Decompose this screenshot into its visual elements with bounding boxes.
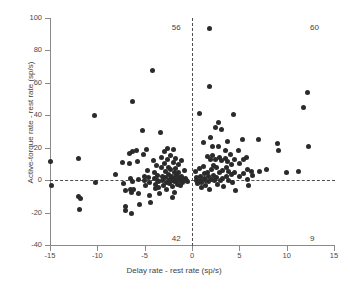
- x-tick-label: 10: [275, 252, 299, 260]
- data-point: [144, 147, 149, 152]
- data-point: [219, 127, 224, 132]
- count-lower-right-quadrant: 9: [310, 234, 314, 243]
- data-point: [296, 169, 301, 174]
- x-tick-label: 15: [322, 252, 346, 260]
- data-point: [305, 90, 310, 95]
- data-point: [182, 168, 187, 173]
- data-point: [197, 111, 202, 116]
- x-tick-label: 5: [227, 252, 251, 260]
- data-point: [158, 130, 163, 135]
- data-point: [250, 173, 255, 178]
- data-point: [130, 179, 135, 184]
- data-point: [232, 170, 237, 175]
- data-point: [228, 152, 233, 157]
- data-point: [141, 152, 146, 157]
- data-point: [244, 155, 249, 160]
- data-point: [207, 187, 212, 192]
- data-point: [140, 128, 145, 133]
- data-point: [165, 157, 170, 162]
- data-point: [147, 180, 152, 185]
- data-point: [135, 159, 140, 164]
- data-point: [92, 113, 97, 118]
- data-point: [136, 191, 141, 196]
- data-point: [150, 68, 155, 73]
- data-point: [76, 156, 81, 161]
- data-point: [241, 171, 246, 176]
- y-tick-mark: [45, 50, 50, 51]
- data-point: [121, 181, 126, 186]
- x-tick-label: 0: [180, 252, 204, 260]
- data-point: [246, 183, 251, 188]
- data-point: [120, 160, 125, 165]
- data-point: [229, 162, 234, 167]
- y-tick-label: 40: [34, 111, 42, 119]
- data-point: [173, 156, 178, 161]
- data-point: [170, 195, 175, 200]
- data-point: [216, 144, 221, 149]
- data-point: [236, 148, 241, 153]
- data-point: [257, 169, 262, 174]
- data-point: [240, 137, 245, 142]
- data-point: [306, 144, 311, 149]
- data-point: [129, 211, 134, 216]
- data-point: [233, 188, 238, 193]
- data-point: [48, 159, 53, 164]
- data-point: [185, 179, 190, 184]
- data-point: [276, 148, 281, 153]
- data-point: [225, 139, 230, 144]
- y-tick-mark: [45, 83, 50, 84]
- data-point: [207, 26, 212, 31]
- data-point: [208, 135, 213, 140]
- y-tick-label: 80: [34, 46, 42, 54]
- data-point: [131, 187, 136, 192]
- data-point: [207, 84, 212, 89]
- data-point: [136, 177, 141, 182]
- data-point: [123, 208, 128, 213]
- data-point: [201, 140, 206, 145]
- data-point: [230, 180, 235, 185]
- data-point: [237, 161, 242, 166]
- data-point: [168, 153, 173, 158]
- data-point: [264, 167, 269, 172]
- data-point: [210, 144, 215, 149]
- y-tick-label: 60: [34, 79, 42, 87]
- y-tick-mark: [45, 148, 50, 149]
- y-tick-mark: [45, 115, 50, 116]
- y-tick-label: 0: [38, 176, 42, 184]
- data-point: [148, 200, 153, 205]
- y-tick-label: -40: [31, 241, 42, 249]
- data-point: [145, 168, 150, 173]
- data-point: [231, 112, 236, 117]
- y-axis-line: [50, 18, 51, 246]
- data-point: [171, 147, 176, 152]
- y-tick-mark: [45, 18, 50, 19]
- x-tick-label: -15: [38, 252, 62, 260]
- data-point: [134, 148, 139, 153]
- data-point: [232, 157, 237, 162]
- count-upper-right-quadrant: 60: [310, 23, 319, 32]
- x-axis-title: Delay rate - rest rate (sp/s): [0, 266, 348, 275]
- data-point: [127, 161, 132, 166]
- data-point: [113, 172, 118, 177]
- x-tick-label: -10: [85, 252, 109, 260]
- data-point: [165, 146, 170, 151]
- data-point: [223, 148, 228, 153]
- data-point: [301, 105, 306, 110]
- count-upper-left-quadrant: 56: [172, 23, 181, 32]
- data-point: [159, 155, 164, 160]
- data-point: [201, 164, 206, 169]
- data-point: [137, 202, 142, 207]
- data-point: [77, 207, 82, 212]
- data-point: [216, 120, 221, 125]
- y-axis-title: Active-torque rate - rest rate (sp/s): [26, 23, 35, 223]
- data-point: [164, 187, 169, 192]
- data-point: [157, 191, 162, 196]
- scatter-plot-figure: -40-20020406080100 -15-10-5051015 566042…: [0, 0, 348, 291]
- data-point: [213, 125, 218, 130]
- data-point: [147, 193, 152, 198]
- data-point: [170, 184, 175, 189]
- data-point: [172, 190, 177, 195]
- data-point: [221, 184, 226, 189]
- y-tick-label: 100: [29, 14, 42, 22]
- data-point: [284, 170, 289, 175]
